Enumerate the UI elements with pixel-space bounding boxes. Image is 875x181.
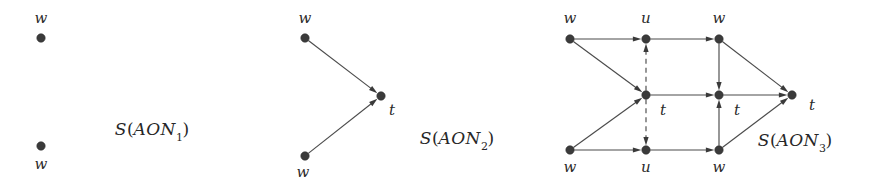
caption-script-s: S: [115, 119, 127, 139]
node-label-p3-u-top: u: [641, 11, 651, 26]
node-dot-p2-w-bottom: [301, 152, 309, 160]
node-dot-p3-t-right: [788, 91, 796, 99]
arrow-head-icon: [643, 137, 648, 146]
arrow-head-icon: [716, 100, 721, 109]
node-label-p2-t: t: [389, 103, 395, 118]
caption-close-paren: ): [183, 119, 190, 139]
arrow-head-icon: [706, 92, 715, 97]
arrow-head-icon: [779, 92, 788, 97]
nodes-layer: [37, 34, 796, 160]
node-label-p2-w-top: w: [298, 11, 311, 26]
panel-caption-panel-3: S(AON3): [758, 132, 832, 152]
edge-solid-segment: [308, 102, 373, 154]
node-dot-p3-w-bl: [566, 146, 574, 154]
caption-aon-text: AON: [134, 119, 176, 139]
edge-p3-t-left-to-p3-u-top: [643, 44, 648, 91]
caption-subscript: 2: [481, 140, 488, 153]
caption-aon-text: AON: [777, 130, 819, 150]
panel-caption-panel-1: S(AON1): [115, 121, 189, 141]
caption-subscript: 1: [176, 131, 183, 144]
node-dot-p1-w-bottom: [37, 142, 45, 150]
edge-p3-w-tl-to-p3-u-top: [574, 36, 641, 41]
node-dot-p3-u-top: [642, 35, 650, 43]
node-label-p3-t-right: t: [809, 98, 815, 113]
panel-caption-panel-2: S(AON2): [420, 130, 494, 150]
edge-solid-segment: [573, 41, 638, 89]
edge-p3-w-tr-to-p3-t-mid: [716, 43, 721, 90]
graph-svg: [0, 0, 875, 181]
edge-p2-w-top-to-p2-t: [308, 41, 377, 94]
edge-p3-u-bottom-to-p3-w-br: [650, 147, 714, 152]
arrow-head-icon: [716, 82, 721, 91]
node-dot-p3-t-mid: [715, 91, 723, 99]
arrow-head-icon: [706, 147, 715, 152]
node-label-p3-w-tl: w: [563, 11, 576, 26]
caption-aon-text: AON: [439, 128, 481, 148]
edge-p3-u-top-to-p3-w-tr: [650, 36, 714, 41]
edge-p3-w-bl-to-p3-t-left: [573, 98, 642, 148]
edge-p3-w-tl-to-p3-t-left: [573, 41, 642, 92]
edge-solid-segment: [573, 100, 638, 147]
arrow-head-icon: [643, 44, 648, 53]
edge-solid-segment: [308, 41, 373, 91]
node-label-p2-w-bottom: w: [296, 165, 309, 180]
arrow-head-icon: [706, 36, 715, 41]
figure-canvas: wwS(AON1)wwtS(AON2)wuwtttwuwS(AON3): [0, 0, 875, 181]
edge-p3-t-left-to-p3-t-mid: [650, 92, 714, 97]
node-label-p3-w-bl: w: [563, 160, 576, 175]
node-dot-p3-w-br: [715, 146, 723, 154]
node-dot-p3-w-tl: [566, 35, 574, 43]
edge-solid-segment: [722, 42, 784, 90]
edge-p3-w-bl-to-p3-u-bottom: [574, 147, 641, 152]
node-dot-p3-w-tr: [715, 35, 723, 43]
caption-open-paren: (: [127, 119, 134, 139]
node-dot-p3-u-bottom: [642, 146, 650, 154]
edge-p3-t-mid-to-p3-t-right: [723, 92, 787, 97]
arrow-head-icon: [634, 85, 642, 92]
caption-script-s: S: [420, 128, 432, 148]
edge-p3-w-br-to-p3-t-mid: [716, 100, 721, 146]
node-label-p3-t-left: t: [660, 103, 666, 118]
caption-close-paren: ): [826, 130, 833, 150]
caption-open-paren: (: [770, 130, 777, 150]
node-dot-p2-w-top: [301, 34, 309, 42]
arrow-head-icon: [633, 36, 642, 41]
caption-open-paren: (: [432, 128, 439, 148]
caption-subscript: 3: [819, 142, 826, 155]
edge-p3-t-left-to-p3-u-bottom: [643, 99, 648, 145]
node-label-p1-w-bottom: w: [34, 157, 47, 172]
caption-script-s: S: [758, 130, 770, 150]
node-label-p3-w-br: w: [712, 160, 725, 175]
node-dot-p1-w-top: [37, 34, 45, 42]
node-dot-p3-t-left: [642, 91, 650, 99]
node-dot-p2-t: [377, 92, 385, 100]
edge-p2-w-bottom-to-p2-t: [308, 99, 377, 154]
arrow-head-icon: [369, 86, 377, 93]
node-label-p3-w-tr: w: [712, 11, 725, 26]
arrow-head-icon: [633, 147, 642, 152]
arrow-head-icon: [634, 98, 642, 105]
node-label-p3-u-bottom: u: [641, 160, 651, 175]
edge-p3-w-tr-to-p3-t-right: [722, 42, 788, 93]
node-label-p1-w-top: w: [34, 11, 47, 26]
node-label-p3-t-mid: t: [734, 103, 740, 118]
caption-close-paren: ): [488, 128, 495, 148]
arrow-head-icon: [780, 98, 788, 105]
